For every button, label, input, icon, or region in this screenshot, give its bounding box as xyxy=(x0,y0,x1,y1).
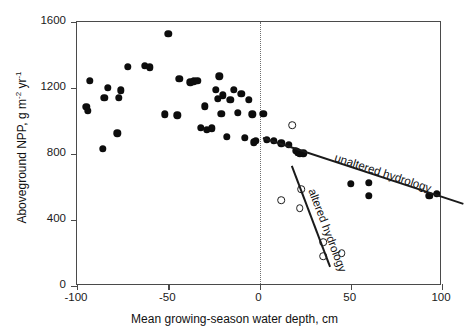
x-axis-title: Mean growing-season water depth, cm xyxy=(0,312,469,326)
y-tick xyxy=(71,154,77,155)
data-point-filled-circle xyxy=(238,90,245,97)
data-point-filled-circle xyxy=(194,77,201,84)
x-tick xyxy=(168,284,169,290)
data-point-filled-circle xyxy=(223,133,230,140)
data-point-filled-circle xyxy=(347,180,354,187)
data-point-filled-circle xyxy=(234,109,241,116)
data-point-filled-circle xyxy=(174,112,181,119)
data-point-filled-circle xyxy=(201,102,208,109)
x-tick-label: 0 xyxy=(229,292,289,304)
data-point-filled-circle xyxy=(117,87,124,94)
data-point-filled-circle xyxy=(146,64,153,71)
y-tick xyxy=(71,22,77,23)
data-point-filled-circle xyxy=(175,75,182,82)
data-point-filled-circle xyxy=(124,63,131,70)
data-point-filled-circle xyxy=(248,111,255,118)
y-axis-title-text: Aboveground NPP, g m xyxy=(15,99,29,224)
data-point-filled-circle xyxy=(208,125,215,132)
data-point-filled-circle xyxy=(212,86,219,93)
y-axis-title-mid: yr xyxy=(15,79,29,92)
data-point-filled-circle xyxy=(241,134,248,141)
y-tick xyxy=(71,220,77,221)
data-point-open-circle xyxy=(278,196,286,204)
data-point-filled-circle xyxy=(161,111,168,118)
x-tick-label: 100 xyxy=(411,292,469,304)
data-point-filled-circle xyxy=(104,84,111,91)
unaltered-hydrology-label: unaltered hydrology xyxy=(333,151,433,194)
data-point-filled-circle xyxy=(245,96,252,103)
data-point-filled-circle xyxy=(250,139,257,146)
x-tick-label: -50 xyxy=(137,292,197,304)
y-axis-title: Aboveground NPP, g m-2 yr-1 xyxy=(14,8,29,288)
x-tick xyxy=(442,284,443,290)
x-tick xyxy=(77,284,78,290)
data-point-filled-circle xyxy=(230,86,237,93)
data-point-filled-circle xyxy=(84,107,91,114)
data-point-filled-circle xyxy=(101,94,108,101)
data-point-filled-circle xyxy=(365,179,372,186)
x-tick-label: -100 xyxy=(46,292,106,304)
data-point-filled-circle xyxy=(216,73,223,80)
scatter-plot-figure: unaltered hydrology altered hydrology 04… xyxy=(0,0,469,335)
zero-reference-line xyxy=(260,22,261,284)
data-point-filled-circle xyxy=(115,94,122,101)
y-tick xyxy=(71,88,77,89)
x-tick xyxy=(260,284,261,290)
data-point-filled-circle xyxy=(227,96,234,103)
data-point-filled-circle xyxy=(86,77,93,84)
y-axis-exponent-area: -2 xyxy=(14,92,23,99)
plot-area: unaltered hydrology altered hydrology xyxy=(76,21,441,285)
data-point-filled-circle xyxy=(113,130,120,137)
data-point-filled-circle xyxy=(99,145,106,152)
data-point-filled-circle xyxy=(217,110,224,117)
x-tick-label: 50 xyxy=(320,292,380,304)
y-axis-exponent-time: -1 xyxy=(14,71,23,78)
data-point-open-circle xyxy=(296,205,304,213)
data-point-filled-circle xyxy=(365,192,372,199)
data-point-filled-circle xyxy=(259,110,266,117)
data-point-filled-circle xyxy=(165,30,172,37)
data-point-filled-circle xyxy=(219,92,226,99)
data-point-open-circle xyxy=(289,121,297,129)
x-tick xyxy=(351,284,352,290)
